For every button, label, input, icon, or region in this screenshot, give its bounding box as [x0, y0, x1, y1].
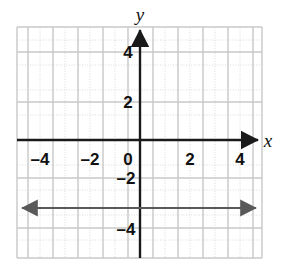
y-tick-label-2: 2	[123, 93, 132, 112]
x-axis-label: x	[263, 130, 273, 151]
y-tick-label-neg2: –2	[117, 169, 136, 188]
y-tick-label-4: 4	[123, 43, 133, 62]
x-tick-label-neg2: –2	[81, 150, 100, 169]
y-axis-label: y	[134, 4, 145, 25]
y-tick-label-neg4: –4	[117, 220, 136, 239]
origin-label: 0	[123, 150, 132, 169]
x-tick-label-4: 4	[235, 150, 245, 169]
x-tick-label-2: 2	[185, 150, 194, 169]
coordinate-plane-figure: x y –4 –2 0 2 4 4 2 –2 –4	[0, 0, 285, 275]
x-tick-label-neg4: –4	[31, 150, 50, 169]
graph-canvas: x y –4 –2 0 2 4 4 2 –2 –4	[0, 0, 285, 275]
